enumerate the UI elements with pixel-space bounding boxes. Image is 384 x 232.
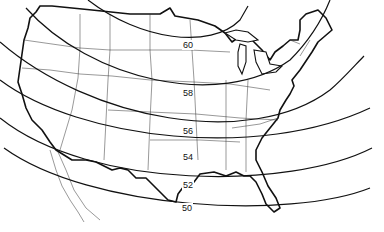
isoline-label-58: 58	[182, 88, 194, 98]
isoline-label-52: 52	[182, 180, 194, 190]
us-map-svg	[0, 0, 384, 232]
isoline-label-50: 50	[181, 203, 193, 213]
isoline-58	[26, 0, 330, 85]
lake-huron-erie	[254, 50, 282, 74]
isolines	[0, 0, 372, 206]
lake-michigan	[238, 44, 246, 74]
isoline-label-56: 56	[182, 126, 194, 136]
isoline-label-60: 60	[182, 40, 194, 50]
isoline-label-54: 54	[182, 152, 194, 162]
state-boundaries	[22, 14, 310, 172]
isoline-map: 60 58 56 54 52 50	[0, 0, 384, 232]
